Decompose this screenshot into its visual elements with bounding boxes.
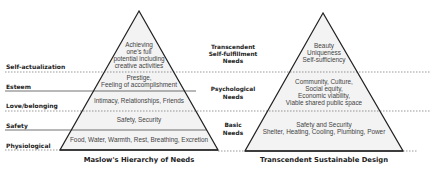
safety-text: Safety, Security	[117, 116, 162, 124]
self-actualization-text-2: one's full	[126, 48, 151, 55]
maslow-title: Maslow's Hierarchy of Needs	[84, 156, 195, 164]
esteem-text-2: Feeling of accomplishment	[101, 81, 177, 89]
psychological-text-4: Viable shared public space	[286, 99, 363, 107]
mid-label-psychological-1: Psychological	[211, 86, 255, 93]
transcendent-text-3: Self-sufficiency	[303, 56, 347, 64]
physiological-text: Food, Water, Warmth, Rest, Breathing, Ex…	[70, 136, 208, 144]
self-actualization-text-4: creative activities	[115, 62, 164, 69]
mid-label-transcendent-1: Transcendent	[211, 44, 255, 50]
label-love-belonging: Love/belonging	[6, 102, 58, 110]
mid-label-basic-1: Basic	[224, 122, 242, 128]
diagram-canvas: Self-actualization Esteem Love/belonging…	[0, 0, 433, 171]
love-belonging-text: Intimacy, Relationships, Friends	[94, 97, 184, 105]
label-safety: Safety	[6, 122, 28, 130]
mid-label-basic-2: Needs	[223, 130, 244, 136]
label-self-actualization: Self-actualization	[6, 63, 65, 70]
mid-label-transcendent-2: Self-fulfillment	[209, 51, 258, 57]
mid-label-transcendent-3: Needs	[223, 58, 244, 64]
label-physiological: Physiological	[6, 142, 51, 150]
basic-text-2: Shelter, Heating, Cooling, Plumbing, Pow…	[263, 128, 386, 136]
mid-label-psychological-2: Needs	[223, 94, 244, 100]
sustainable-title: Transcendent Sustainable Design	[260, 156, 388, 164]
label-esteem: Esteem	[6, 83, 31, 90]
